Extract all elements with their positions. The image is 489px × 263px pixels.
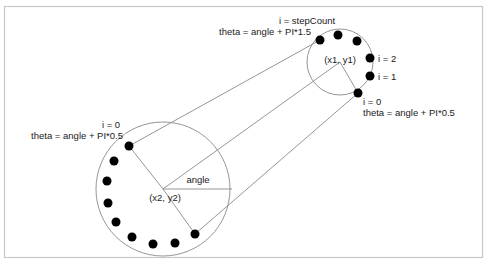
big-radius-line-top xyxy=(129,146,163,189)
big-dot xyxy=(128,233,137,242)
center-line xyxy=(163,62,340,189)
big-dot xyxy=(149,240,158,249)
big-dot xyxy=(104,199,113,208)
label-small-i2: i = 2 xyxy=(378,53,396,64)
label-big-i0-theta: theta = angle + PI*0.5 xyxy=(31,130,123,141)
label-small-i0: i = 0 xyxy=(363,96,381,107)
top-tangent-line xyxy=(129,40,320,146)
label-small-center: (x1, y1) xyxy=(324,54,356,65)
small-radius-line xyxy=(340,62,358,93)
label-small-last-theta: theta = angle + PI*1.5 xyxy=(219,26,311,37)
bottom-tangent-line xyxy=(195,93,358,234)
label-angle: angle xyxy=(186,174,209,185)
big-dot xyxy=(103,177,112,186)
small-dot xyxy=(353,37,362,46)
label-small-i0-theta: theta = angle + PI*0.5 xyxy=(363,107,455,118)
small-dot-i2 xyxy=(366,54,375,63)
label-big-center: (x2, y2) xyxy=(149,192,181,203)
big-dot xyxy=(171,239,180,248)
diagram-canvas: i = stepCount theta = angle + PI*1.5 (x1… xyxy=(0,0,489,263)
label-small-last-index: i = stepCount xyxy=(279,15,336,26)
big-dot-last xyxy=(191,230,200,239)
big-dot xyxy=(112,218,121,227)
small-dot xyxy=(334,31,343,40)
big-dot-i0 xyxy=(125,142,134,151)
label-small-i1: i = 1 xyxy=(378,71,396,82)
small-dot-stepcount xyxy=(316,36,325,45)
small-dot-i1 xyxy=(366,72,375,81)
label-big-i0: i = 0 xyxy=(102,119,120,130)
big-dot xyxy=(110,157,119,166)
small-dot-i0 xyxy=(354,89,363,98)
